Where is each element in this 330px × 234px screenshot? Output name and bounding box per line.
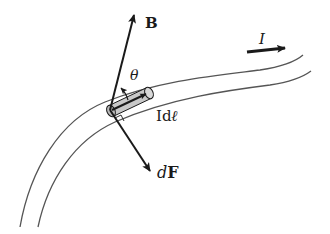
force-label-symbol: F xyxy=(167,163,179,182)
force-label: dF xyxy=(157,163,179,182)
diagram-canvas: B θ I Idℓ dF xyxy=(0,0,330,234)
force-vector-arrow xyxy=(110,110,150,171)
idl-label-prefix: Id xyxy=(156,107,172,125)
theta-label: θ xyxy=(130,67,139,83)
current-direction-arrow xyxy=(247,48,285,52)
idl-label: Idℓ xyxy=(156,107,178,125)
wire-inner-edge xyxy=(38,71,311,227)
idl-label-symbol: ℓ xyxy=(172,107,178,125)
wire-outer-edge xyxy=(20,55,303,227)
b-field-label: B xyxy=(145,14,158,32)
current-label: I xyxy=(258,30,266,48)
force-label-prefix: d xyxy=(157,163,167,182)
